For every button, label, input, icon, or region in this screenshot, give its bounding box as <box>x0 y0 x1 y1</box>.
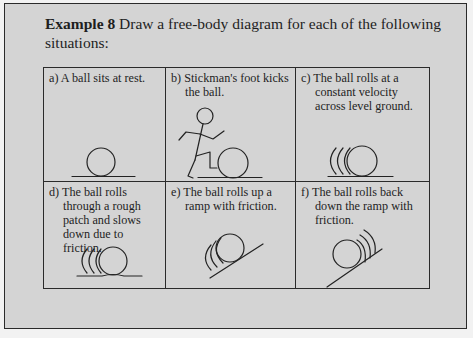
ball-rolling-up-ramp-illustration <box>206 234 264 278</box>
stickman-arm-front <box>200 131 224 139</box>
stickman-head-icon <box>197 108 213 124</box>
motion-arc-icon <box>338 148 344 174</box>
motion-arc-icon <box>206 245 212 270</box>
ball-icon <box>347 146 377 176</box>
stickman-kicking-ball-illustration <box>179 108 262 178</box>
ball-icon <box>333 240 361 268</box>
stickman-arm-back <box>179 132 200 140</box>
ball-rolling-down-ramp-illustration <box>327 230 382 287</box>
drawings-layer <box>0 0 473 338</box>
ball-icon <box>99 247 127 275</box>
ball-icon <box>87 148 115 176</box>
ball-rolling-level-illustration <box>328 146 393 177</box>
stickman-leg-back <box>188 160 195 178</box>
motion-arc-icon <box>82 249 87 273</box>
stickman-leg-kick <box>196 152 217 168</box>
ball-icon <box>218 148 248 178</box>
ball-rolling-rough-patch-illustration <box>77 247 142 276</box>
motion-arc-icon <box>331 148 337 174</box>
motion-arc-icon <box>89 249 94 273</box>
ramp-line <box>327 249 382 287</box>
rough-ground-line <box>77 275 142 277</box>
ball-at-rest-illustration <box>72 148 135 177</box>
